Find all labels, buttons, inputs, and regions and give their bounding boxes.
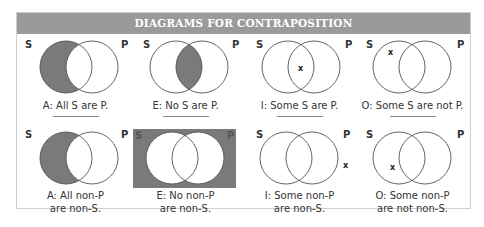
x-mark: x: [343, 161, 349, 170]
caption-line-1: I: Some non-P: [243, 189, 356, 202]
caption: I: Some S are P.: [243, 99, 356, 112]
caption: E: No S are P.: [129, 99, 242, 112]
s-label: S: [25, 129, 32, 140]
p-label: P: [121, 129, 128, 140]
diagram-a-original: S P A: All S are P.: [19, 36, 132, 120]
venn-diagram: S P: [129, 36, 242, 96]
separator: [163, 116, 209, 117]
caption-line-2: are non-S.: [19, 202, 132, 215]
venn-diagram: S P: [19, 36, 132, 96]
p-label: P: [457, 129, 464, 140]
venn-diagram: S P: [19, 126, 132, 188]
p-label: P: [227, 130, 234, 141]
caption: A: All S are P.: [19, 99, 132, 112]
x-mark: x: [388, 48, 394, 57]
diagram-o-original: S P x O: Some S are not P.: [356, 36, 469, 120]
figure-title: DIAGRAMS FOR CONTRAPOSITION: [17, 13, 470, 34]
caption-line-1: E: No non-P: [129, 189, 242, 202]
p-label: P: [232, 39, 239, 50]
venn-diagram: S P x: [243, 126, 356, 188]
x-mark: x: [390, 163, 396, 172]
diagram-i-original: S P x I: Some S are P.: [243, 36, 356, 120]
caption-line-2: are not non-S.: [356, 202, 469, 215]
venn-diagram: S P x: [356, 36, 469, 96]
s-label: S: [25, 39, 32, 50]
s-label: S: [135, 130, 142, 141]
caption-line-1: A: All non-P: [19, 189, 132, 202]
s-label: S: [143, 39, 150, 50]
s-label: S: [256, 129, 263, 140]
diagram-o-contrapositive: S P x O: Some non-P are not non-S.: [356, 126, 469, 206]
diagram-e-original: S P E: No S are P.: [129, 36, 242, 120]
diagram-e-contrapositive: S P E: No non-P are non-S.: [129, 126, 242, 206]
p-label: P: [121, 39, 128, 50]
p-label: P: [343, 129, 350, 140]
separator: [277, 116, 323, 117]
p-label: P: [457, 39, 464, 50]
s-label: S: [366, 129, 373, 140]
diagram-i-contrapositive: S P x I: Some non-P are non-S.: [243, 126, 356, 206]
caption-line-2: are non-S.: [243, 202, 356, 215]
p-label: P: [345, 39, 352, 50]
separator: [53, 116, 99, 117]
venn-diagram: S P x: [243, 36, 356, 96]
venn-diagram: S P: [129, 126, 242, 188]
caption: O: Some S are not P.: [356, 99, 469, 112]
caption-line-2: are non-S.: [129, 202, 242, 215]
x-mark: x: [298, 64, 304, 73]
diagram-a-contrapositive: S P A: All non-P are non-S.: [19, 126, 132, 206]
caption-line-1: O: Some non-P: [356, 189, 469, 202]
venn-diagram: S P x: [356, 126, 469, 188]
s-label: S: [256, 39, 263, 50]
separator: [390, 116, 436, 117]
s-label: S: [366, 39, 373, 50]
